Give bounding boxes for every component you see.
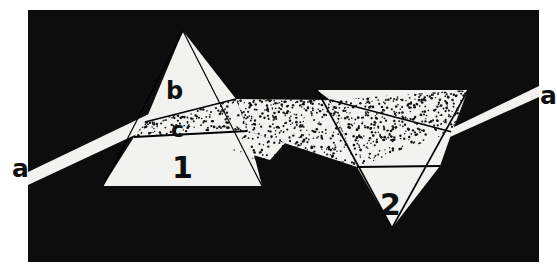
prism-two-lower-boundary [357, 166, 440, 167]
label-outgoing-ray-a: a [540, 81, 557, 110]
label-boundary-b: b [166, 77, 183, 105]
prism-dispersion-diagram: a a b c 1 2 [0, 0, 557, 279]
label-prism-two: 2 [380, 187, 401, 222]
label-incoming-ray-a: a [12, 154, 29, 183]
label-boundary-c: c [171, 117, 184, 142]
label-prism-one: 1 [172, 150, 193, 185]
figure-root: a a b c 1 2 [0, 0, 557, 279]
